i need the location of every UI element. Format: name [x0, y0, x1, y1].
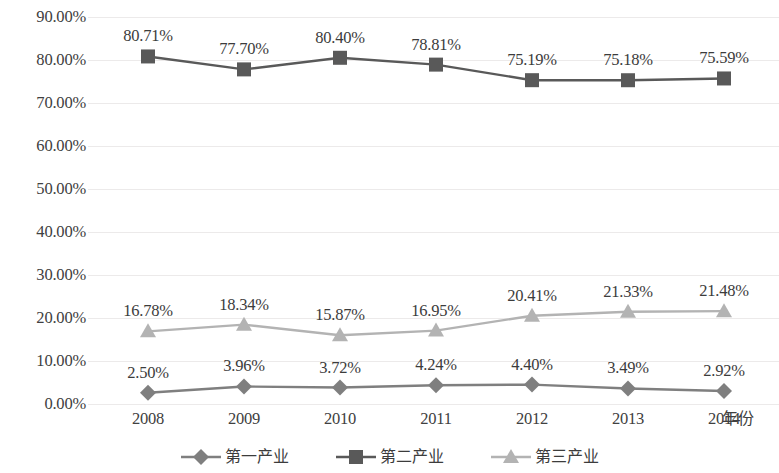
data-point-label: 2.50%: [127, 365, 169, 382]
x-axis-tick-label: 2008: [132, 411, 164, 428]
data-point-label: 2.92%: [703, 363, 745, 380]
line-chart: 0.00%10.00%20.00%30.00%40.00%50.00%60.00…: [0, 0, 779, 473]
data-point-marker: [237, 62, 251, 76]
legend-marker-icon: [490, 448, 532, 466]
chart-legend: 第一产业第二产业第三产业: [0, 441, 779, 473]
y-axis: 0.00%10.00%20.00%30.00%40.00%50.00%60.00…: [0, 0, 86, 410]
legend-item[interactable]: 第三产业: [490, 448, 599, 466]
data-point-label: 3.72%: [319, 360, 361, 377]
y-axis-tick-label: 10.00%: [4, 353, 86, 370]
legend-marker-icon: [180, 448, 222, 466]
data-point-marker: [236, 378, 252, 394]
data-point-label: 18.34%: [219, 297, 269, 314]
legend-label: 第一产业: [225, 449, 289, 465]
legend-item[interactable]: 第二产业: [335, 448, 444, 466]
y-axis-tick-label: 30.00%: [4, 267, 86, 284]
data-point-marker: [429, 58, 443, 72]
y-axis-tick-label: 0.00%: [4, 396, 86, 413]
data-point-marker: [140, 385, 156, 401]
data-point-marker: [716, 383, 732, 399]
data-point-label: 4.40%: [511, 357, 553, 374]
y-axis-tick-label: 80.00%: [4, 52, 86, 69]
data-point-label: 20.41%: [507, 288, 557, 305]
data-point-marker: [428, 377, 444, 393]
data-point-marker: [332, 380, 348, 396]
data-point-label: 77.70%: [219, 41, 269, 58]
x-axis-tick-label: 2009: [228, 411, 260, 428]
data-point-marker: [621, 73, 635, 87]
x-axis: 2008200920102011201220132014: [88, 409, 779, 439]
data-point-marker: [620, 380, 636, 396]
data-point-label: 80.40%: [315, 30, 365, 47]
y-axis-tick-label: 70.00%: [4, 95, 86, 112]
series-layer: [88, 0, 779, 410]
data-point-marker: [333, 51, 347, 65]
data-point-marker: [236, 317, 252, 331]
x-axis-tick-label: 2012: [516, 411, 548, 428]
x-axis-tick-label: 2010: [324, 411, 356, 428]
data-point-label: 78.81%: [411, 37, 461, 54]
y-axis-tick-label: 40.00%: [4, 224, 86, 241]
legend-item[interactable]: 第一产业: [180, 448, 289, 466]
data-point-marker: [141, 49, 155, 63]
data-point-label: 3.49%: [607, 360, 649, 377]
y-axis-tick-label: 90.00%: [4, 9, 86, 26]
legend-label: 第三产业: [535, 449, 599, 465]
data-point-label: 80.71%: [123, 28, 173, 45]
data-point-label: 75.59%: [699, 50, 749, 67]
data-point-label: 15.87%: [315, 307, 365, 324]
data-point-label: 75.18%: [603, 52, 653, 69]
plot-area: 2.50%3.96%3.72%4.24%4.40%3.49%2.92%80.71…: [88, 0, 779, 410]
legend-label: 第二产业: [380, 449, 444, 465]
y-axis-tick-label: 50.00%: [4, 181, 86, 198]
data-point-label: 21.33%: [603, 284, 653, 301]
data-point-label: 4.24%: [415, 357, 457, 374]
legend-marker-icon: [335, 448, 377, 466]
data-point-label: 16.95%: [411, 303, 461, 320]
data-point-label: 3.96%: [223, 358, 265, 375]
y-axis-tick-label: 60.00%: [4, 138, 86, 155]
data-point-marker: [717, 71, 731, 85]
y-axis-tick-label: 20.00%: [4, 310, 86, 327]
data-point-label: 21.48%: [699, 283, 749, 300]
x-axis-title: 年份: [722, 411, 754, 427]
x-axis-tick-label: 2013: [612, 411, 644, 428]
data-point-marker: [525, 73, 539, 87]
data-point-marker: [524, 377, 540, 393]
data-point-label: 16.78%: [123, 303, 173, 320]
x-axis-tick-label: 2011: [420, 411, 452, 428]
data-point-label: 75.19%: [507, 52, 557, 69]
